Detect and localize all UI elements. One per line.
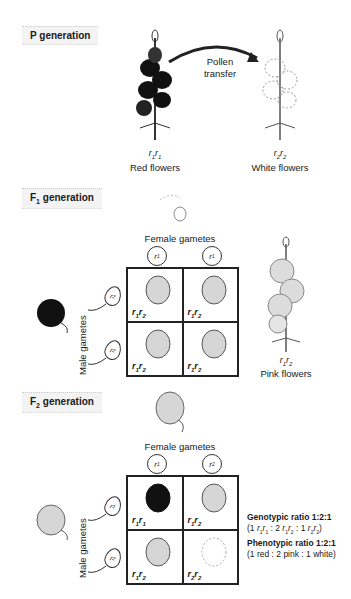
white-parent-genotype: r2r2 [258, 148, 302, 160]
p-generation-text: P generation [30, 30, 90, 41]
genotypic-ratio-label: Genotypic ratio 1:2:1 [247, 512, 351, 523]
sperm-tails-icon [86, 510, 111, 580]
sperm-tails-icon [86, 300, 111, 370]
f1-female-gametes-label: Female gametes [135, 233, 225, 244]
f2-female-gametes-label: Female gametes [135, 441, 225, 452]
white-parent-phenotype: White flowers [242, 162, 318, 173]
f2-cell-3: r1r2 [127, 530, 183, 584]
f2-female-gamete-2: r2 [202, 454, 222, 474]
pollen-text: Pollen [195, 56, 245, 68]
f2-cell-4: r2r2 [183, 530, 239, 584]
genotypic-ratio-detail: (1 r1r1 : 2 r1r2 : 1 r2r2) [247, 523, 351, 538]
p-generation-label: P generation [22, 26, 98, 45]
pink-flower-left-icon [33, 500, 73, 542]
red-flower-icon [33, 293, 73, 333]
pollen-transfer-label: Pollen transfer [195, 56, 245, 80]
f2-generation-label: F2 generation [22, 392, 102, 413]
transfer-text: transfer [195, 68, 245, 80]
f1-cell-1: r1r2 [127, 268, 183, 322]
f2-punnett-square: r1r1 r1r2 r1r2 r2r2 [126, 475, 239, 585]
f2-cell-2: r1r2 [183, 476, 239, 530]
f1-punnett-square: r1r2 r1r2 r1r2 r1r2 [126, 267, 239, 377]
white-snapdragon-plant-icon [255, 28, 305, 143]
pink-snapdragon-plant-icon [262, 236, 310, 354]
red-parent-genotype: r1r1 [133, 148, 177, 160]
f2-cell-1: r1r1 [127, 476, 183, 530]
f1-offspring-phenotype: Pink flowers [248, 368, 324, 379]
f1-cell-3: r1r2 [127, 322, 183, 376]
phenotypic-ratio-label: Phenotypic ratio 1:2:1 [247, 538, 351, 549]
f1-female-gamete-2: r1 [202, 246, 222, 266]
phenotypic-ratio-detail: (1 red : 2 pink : 1 white) [247, 549, 351, 560]
ratio-summary: Genotypic ratio 1:2:1 (1 r1r1 : 2 r1r2 :… [247, 512, 351, 560]
pink-flower-icon [143, 535, 173, 569]
pink-flower-icon [143, 327, 173, 361]
pink-flower-icon [199, 327, 229, 361]
f1-female-gamete-1: r1 [147, 246, 167, 266]
pink-flower-icon [199, 273, 229, 307]
white-flower-icon [199, 535, 229, 569]
f1-generation-label: F1 generation [22, 188, 102, 209]
pink-flower-icon [199, 481, 229, 515]
pink-flower-top-icon [152, 388, 192, 433]
red-parent-phenotype: Red flowers [118, 162, 192, 173]
f1-cell-2: r1r2 [183, 268, 239, 322]
f1-cell-4: r1r2 [183, 322, 239, 376]
pink-flower-icon [143, 273, 173, 307]
f1-offspring-genotype: r1r2 [264, 355, 308, 367]
f2-female-gamete-1: r1 [147, 454, 167, 474]
faint-flower-icon [155, 190, 190, 225]
red-flower-icon [143, 481, 173, 515]
